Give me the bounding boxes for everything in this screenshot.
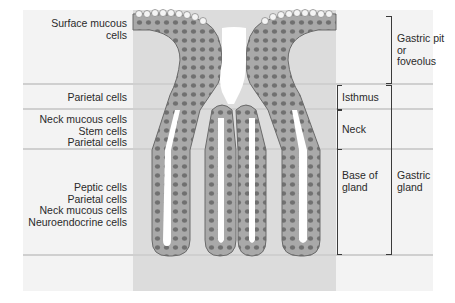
label-base-of: Base of xyxy=(342,170,378,182)
label-base-neck-mucous-cells: Neck mucous cells xyxy=(15,205,127,217)
bracket-gastric-pit xyxy=(386,16,392,84)
label-neck-mucous-cells: Neck mucous cells xyxy=(20,114,127,126)
label-gastric-gland-line2: gland xyxy=(397,182,430,194)
label-isthmus-parietal-cells: Parietal cells xyxy=(30,92,127,104)
label-gland: gland xyxy=(342,182,378,194)
label-isthmus: Isthmus xyxy=(342,92,379,104)
bracket-gastric-gland xyxy=(386,85,392,255)
label-gastric-pit-line1: Gastric pit xyxy=(397,33,444,45)
label-gastric-pit-line3: foveolus xyxy=(397,56,444,68)
label-gastric-pit: Gastric pit or foveolus xyxy=(397,33,444,68)
label-neck-cells: Neck mucous cells Stem cells Parietal ce… xyxy=(20,114,127,149)
label-base-of-gland: Base of gland xyxy=(342,170,378,193)
bracket-base xyxy=(337,149,342,255)
label-neck-parietal-cells: Parietal cells xyxy=(20,137,127,149)
label-peptic-cells: Peptic cells xyxy=(15,182,127,194)
label-surface-mucous-cells: Surface mucous cells xyxy=(30,18,127,41)
label-gastric-gland-line1: Gastric xyxy=(397,170,430,182)
label-neck: Neck xyxy=(342,124,366,136)
label-base-cells: Peptic cells Parietal cells Neck mucous … xyxy=(15,182,127,228)
label-gastric-gland: Gastric gland xyxy=(397,170,430,193)
label-neuroendocrine-cells: Neuroendocrine cells xyxy=(15,217,127,229)
